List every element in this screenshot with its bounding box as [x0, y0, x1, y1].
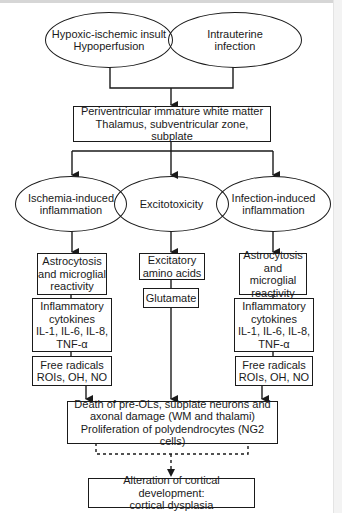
- left-astrocytosis-box: Astrocytosis and microglial reactivity: [37, 253, 107, 295]
- mechanism-excitotoxicity-label: Excitotoxicity: [140, 198, 204, 211]
- outcome-box: Death of pre-OLs, subplate neurons and a…: [67, 401, 278, 444]
- right-astrocytosis-label: Astrocytosis and microglial reactivity: [240, 249, 306, 299]
- right-free-radicals-box: Free radicals ROIs, OH, NO: [235, 356, 313, 386]
- cause-infection-label: Intrauterine infection: [207, 28, 263, 53]
- cause-hypoxic-label: Hypoxic-ischemic insult Hypoperfusion: [52, 28, 166, 53]
- left-free-radicals-box: Free radicals ROIs, OH, NO: [32, 356, 112, 386]
- glutamate-label: Glutamate: [146, 292, 197, 305]
- excitatory-amino-acids-box: Excitatory amino acids: [139, 253, 205, 280]
- mechanism-excitotoxicity: Excitotoxicity: [114, 176, 229, 232]
- mechanism-ischemia-inflammation: Ischemia-induced inflammation: [15, 176, 127, 232]
- mechanism-infection-inflammation: Infection-induced inflammation: [216, 176, 331, 232]
- left-free-radicals-label: Free radicals ROIs, OH, NO: [37, 359, 107, 384]
- right-astrocytosis-box: Astrocytosis and microglial reactivity: [239, 253, 307, 295]
- final-outcome-box: Alteration of cortical development: cort…: [88, 478, 255, 508]
- left-astrocytosis-label: Astrocytosis and microglial reactivity: [38, 255, 106, 293]
- mechanism-infection-label: Infection-induced inflammation: [232, 192, 316, 217]
- target-region-label: Periventricular immature white matter Th…: [74, 105, 270, 143]
- cause-intrauterine-infection: Intrauterine infection: [168, 12, 302, 68]
- right-free-radicals-label: Free radicals ROIs, OH, NO: [239, 359, 309, 384]
- glutamate-box: Glutamate: [143, 288, 199, 308]
- outcome-label: Death of pre-OLs, subplate neurons and a…: [68, 398, 277, 448]
- target-region-box: Periventricular immature white matter Th…: [73, 106, 271, 142]
- excitatory-amino-acids-label: Excitatory amino acids: [143, 254, 202, 279]
- right-cytokines-box: Inflammatory cytokines IL-1, IL-6, IL-8,…: [234, 298, 314, 352]
- left-cytokines-box: Inflammatory cytokines IL-1, IL-6, IL-8,…: [32, 298, 112, 352]
- right-cytokines-label: Inflammatory cytokines IL-1, IL-6, IL-8,…: [238, 300, 310, 350]
- final-outcome-label: Alteration of cortical development: cort…: [89, 474, 254, 512]
- left-cytokines-label: Inflammatory cytokines IL-1, IL-6, IL-8,…: [36, 300, 108, 350]
- cause-hypoxic-ischemic: Hypoxic-ischemic insult Hypoperfusion: [45, 12, 173, 68]
- mechanism-ischemia-label: Ischemia-induced inflammation: [28, 192, 114, 217]
